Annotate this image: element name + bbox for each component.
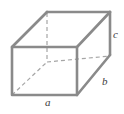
dimension-label-c: c <box>113 29 118 40</box>
dimension-label-b: b <box>102 76 108 87</box>
hidden-edge-back-bottom-horizontal <box>47 56 110 62</box>
prism-drawing <box>0 0 124 114</box>
hidden-edges-group <box>12 13 110 95</box>
edge-top-right-diagonal <box>77 12 110 47</box>
visible-edges-group <box>12 12 110 95</box>
edge-top-left-diagonal <box>12 12 47 47</box>
hidden-edge-bottom-left-diagonal <box>12 62 47 95</box>
dimension-label-a: a <box>45 97 51 108</box>
prism-figure: a b c <box>0 0 124 114</box>
edge-front-face <box>12 47 77 95</box>
